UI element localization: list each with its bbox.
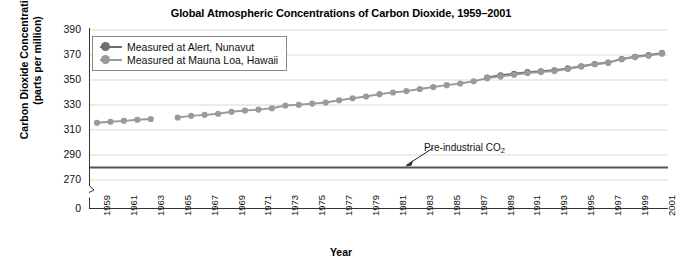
data-point: [632, 54, 638, 60]
data-point: [659, 51, 665, 57]
data-point: [255, 107, 261, 113]
data-point: [444, 82, 450, 88]
data-point: [565, 66, 571, 72]
legend-item-mauna-loa: Measured at Mauna Loa, Hawaii: [100, 53, 278, 66]
legend-marker-mauna-loa: [100, 54, 122, 65]
data-point: [403, 88, 409, 94]
data-point: [215, 111, 221, 117]
y-tick-label: 370: [51, 48, 81, 60]
y-tick-label: 390: [51, 23, 81, 35]
data-point: [228, 109, 234, 115]
data-point: [296, 102, 302, 108]
x-axis-title: Year: [0, 246, 682, 258]
data-point: [202, 112, 208, 118]
legend-dot-mauna-loa: [101, 55, 110, 64]
annotation-arrow-head: [406, 161, 413, 167]
data-point: [94, 120, 100, 126]
data-point: [134, 117, 140, 123]
chart-title: Global Atmospheric Concentrations of Car…: [0, 7, 682, 19]
data-point: [417, 86, 423, 92]
data-point: [121, 118, 127, 124]
co2-chart-figure: Global Atmospheric Concentrations of Car…: [0, 0, 682, 265]
data-point: [578, 63, 584, 69]
data-point: [471, 78, 477, 84]
data-point: [551, 68, 557, 74]
legend-dot-alert: [101, 42, 110, 51]
data-point: [497, 73, 503, 79]
data-point: [336, 97, 342, 103]
y-tick-label: 270: [51, 173, 81, 185]
data-point: [242, 107, 248, 113]
data-point: [538, 69, 544, 75]
pre-industrial-annotation-subscript: 2: [501, 146, 505, 155]
y-tick-label: 310: [51, 123, 81, 135]
y-axis-title-line2: (parts per million): [30, 0, 43, 151]
legend-label-alert: Measured at Alert, Nunavut: [127, 41, 254, 53]
data-point: [605, 60, 611, 66]
y-tick-label: 330: [51, 98, 81, 110]
y-tick-label: 290: [51, 148, 81, 160]
data-point: [309, 101, 315, 107]
y-tick-label: 0: [51, 202, 81, 214]
data-point: [430, 84, 436, 90]
data-point: [188, 113, 194, 119]
data-point: [484, 75, 490, 81]
chart-legend: Measured at Alert, Nunavut Measured at M…: [92, 36, 287, 71]
data-point: [363, 93, 369, 99]
pre-industrial-annotation: Pre-industrial CO2: [424, 142, 505, 153]
data-point: [511, 72, 517, 78]
data-point: [645, 53, 651, 59]
y-tick-label: 350: [51, 73, 81, 85]
data-point: [175, 114, 181, 120]
y-axis-title-line1: Carbon Dioxide Concentrations: [18, 0, 30, 139]
data-point: [457, 80, 463, 86]
data-point: [592, 61, 598, 67]
legend-item-alert: Measured at Alert, Nunavut: [100, 40, 278, 53]
data-point: [282, 102, 288, 108]
data-point: [269, 105, 275, 111]
data-point: [376, 91, 382, 97]
legend-marker-alert: [100, 41, 122, 52]
pre-industrial-annotation-text: Pre-industrial CO: [424, 142, 501, 153]
axis-break-mark: [89, 186, 94, 209]
data-point: [107, 119, 113, 125]
data-point: [148, 116, 154, 122]
data-point: [524, 70, 530, 76]
data-point: [323, 99, 329, 105]
data-point: [350, 95, 356, 101]
data-point: [390, 89, 396, 95]
y-axis-title: Carbon Dioxide Concentrations (parts per…: [18, 0, 43, 151]
legend-label-mauna-loa: Measured at Mauna Loa, Hawaii: [127, 54, 278, 66]
data-point: [619, 56, 625, 62]
